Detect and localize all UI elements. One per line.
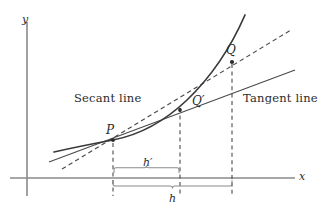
drop-lines-group — [113, 64, 232, 196]
secant-line-label: Secant line — [74, 93, 141, 105]
brace-label-h-prime: h′ — [143, 157, 153, 168]
brace-h — [113, 181, 232, 189]
diagram-canvas — [0, 0, 322, 215]
point-marker-q-prime — [178, 108, 182, 112]
point-label-q-prime: Q′ — [192, 95, 205, 107]
axes-group — [10, 22, 295, 196]
tangent-line-label: Tangent line — [243, 93, 318, 105]
point-label-q: Q — [226, 44, 236, 56]
point-marker-p — [111, 138, 115, 142]
x-axis-label: x — [299, 171, 305, 182]
tangent-line — [49, 70, 295, 162]
function-curve — [54, 15, 245, 152]
brace-label-h: h — [169, 193, 176, 204]
point-marker-q — [230, 60, 234, 64]
figure-container: y x P Q Q′ h′ h Secant line Tangent line — [0, 0, 322, 215]
point-label-p: P — [106, 124, 114, 136]
y-axis-label: y — [22, 14, 28, 25]
